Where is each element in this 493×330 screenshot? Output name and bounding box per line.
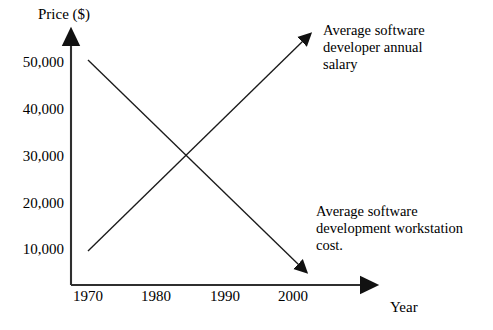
y-tick-label: 50,000 [2, 55, 64, 70]
x-axis-title: Year [390, 299, 418, 316]
x-tick-label: 2000 [263, 289, 323, 304]
y-tick-label: 30,000 [2, 149, 64, 164]
line-chart-figure: Price ($) Year 50,000 40,000 30,000 20,0… [0, 0, 493, 330]
x-tick-label: 1990 [195, 289, 255, 304]
x-tick-label: 1980 [126, 289, 186, 304]
y-tick-label: 10,000 [2, 242, 64, 257]
x-tick-label: 1970 [58, 289, 118, 304]
series-line-salary [88, 41, 303, 251]
series-line-workstation [88, 60, 299, 265]
annotation-salary: Average software developer annual salary [323, 22, 488, 73]
y-tick-label: 20,000 [2, 196, 64, 211]
y-axis-tick-labels: 50,000 40,000 30,000 20,000 10,000 [0, 0, 64, 330]
y-tick-label: 40,000 [2, 102, 64, 117]
annotation-workstation: Average software development workstation… [316, 203, 491, 254]
